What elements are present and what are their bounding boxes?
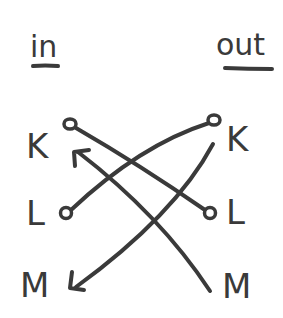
left-node-k-label: K [26, 126, 50, 166]
right-node-l-label: L [226, 192, 245, 232]
node-circle-in-k-icon [64, 119, 76, 129]
node-circle-out-l-icon [205, 208, 216, 219]
header-out-underline [225, 68, 272, 69]
right-node-k-label: K [226, 119, 250, 159]
right-node-m-label: M [222, 266, 251, 306]
header-in-label: in [30, 29, 57, 64]
node-circle-in-l-icon [61, 208, 72, 219]
diagram-canvas: in out K L M K L M [0, 0, 283, 318]
header-in: in [30, 29, 58, 66]
left-node-m-label: M [20, 265, 49, 305]
header-out-label: out [216, 27, 265, 62]
header-out: out [216, 27, 272, 69]
node-circle-out-k-icon [208, 115, 220, 125]
edge-in-k-to-out-l [76, 128, 205, 210]
left-node-l-label: L [26, 193, 45, 233]
header-in-underline [33, 66, 58, 67]
